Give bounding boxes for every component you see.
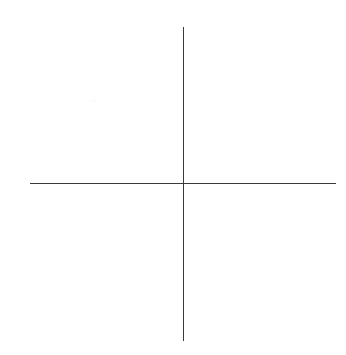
faint-artifact-dot: [92, 100, 93, 101]
vertical-axis-line: [183, 27, 184, 341]
faint-artifact-dot: [94, 101, 95, 102]
axes-diagram: [0, 0, 346, 355]
